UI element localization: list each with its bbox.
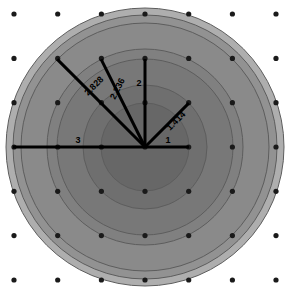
radial-label-1: 1	[165, 135, 170, 145]
lattice-dot	[11, 100, 16, 105]
lattice-dot	[230, 277, 235, 282]
lattice-dot	[55, 277, 60, 282]
lattice-dot	[273, 233, 278, 238]
lattice-dot	[55, 189, 60, 194]
lattice-dot	[273, 56, 278, 61]
lattice-dot	[273, 277, 278, 282]
lattice-dot	[186, 233, 191, 238]
lattice-dot	[11, 233, 16, 238]
lattice-dot	[142, 11, 147, 16]
lattice-dot	[11, 11, 16, 16]
lattice-dot	[55, 100, 60, 105]
lattice-dot	[99, 277, 104, 282]
lattice-dot	[11, 189, 16, 194]
lattice-dot	[230, 144, 235, 149]
lattice-dot	[273, 189, 278, 194]
lattice-dot	[230, 56, 235, 61]
lattice-dot	[230, 100, 235, 105]
radial-label-2: 2	[136, 78, 141, 88]
lattice-dot	[230, 233, 235, 238]
lattice-dot	[186, 189, 191, 194]
lattice-dot	[99, 11, 104, 16]
lattice-dot	[186, 11, 191, 16]
lattice-dot	[55, 233, 60, 238]
lattice-dot	[55, 11, 60, 16]
lattice-dot	[273, 11, 278, 16]
lattice-dot	[186, 56, 191, 61]
lattice-dot	[142, 233, 147, 238]
lattice-dot	[142, 189, 147, 194]
lattice-dot	[99, 233, 104, 238]
lattice-distance-figure: 11.41422.2362.8283	[0, 0, 287, 294]
lattice-dot	[142, 277, 147, 282]
lattice-dot	[11, 56, 16, 61]
lattice-dot	[11, 277, 16, 282]
figure-canvas: 11.41422.2362.8283	[0, 0, 287, 294]
lattice-dot	[186, 277, 191, 282]
lattice-dot	[273, 144, 278, 149]
lattice-dot	[230, 189, 235, 194]
lattice-dot	[273, 100, 278, 105]
radial-label-3: 3	[75, 135, 80, 145]
lattice-dot	[230, 11, 235, 16]
lattice-dot	[99, 189, 104, 194]
